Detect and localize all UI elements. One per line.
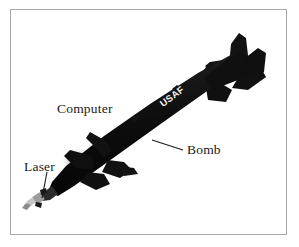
callout-label-laser: Laser <box>24 160 55 174</box>
figure-page: USAF Computer Bomb Laser <box>0 0 299 247</box>
bomb-body <box>48 52 248 196</box>
callout-label-bomb: Bomb <box>187 143 221 157</box>
bomb-photograph: USAF <box>0 0 299 247</box>
leader-line-bomb <box>152 140 183 150</box>
seeker-fin-lower <box>35 202 42 208</box>
callout-label-computer: Computer <box>57 102 113 116</box>
laser-seeker-head <box>22 186 58 210</box>
